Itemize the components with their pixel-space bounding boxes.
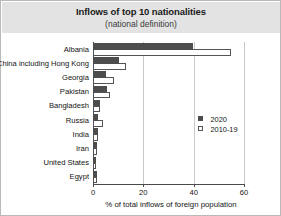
category-label: India — [73, 130, 89, 139]
chart-figure: Inflows of top 10 nationalities (nationa… — [0, 0, 281, 216]
chart-title-band: Inflows of top 10 nationalities (nationa… — [2, 2, 280, 33]
x-tick — [143, 184, 144, 187]
bar-group — [93, 85, 244, 99]
x-axis-title: % of total inflows of foreign population — [71, 200, 271, 209]
open-square-icon — [198, 126, 203, 131]
bar-group — [93, 56, 244, 70]
bar-2010-19 — [93, 163, 96, 170]
bar-2010-19 — [93, 49, 231, 56]
bar-2020 — [93, 71, 106, 78]
legend-item-2020: 2020 — [198, 110, 238, 120]
bar-2020 — [93, 142, 97, 149]
category-label: Georgia — [62, 73, 89, 82]
bar-group — [93, 141, 244, 155]
bar-2010-19 — [93, 134, 98, 141]
chart-title: Inflows of top 10 nationalities — [2, 6, 280, 17]
bar-2020 — [93, 57, 119, 64]
bar-2020 — [93, 114, 98, 121]
bar-2010-19 — [93, 148, 97, 155]
category-label: United States — [43, 158, 89, 167]
x-tick-label: 60 — [232, 188, 256, 197]
bar-2020 — [93, 128, 98, 135]
x-tick-label: 20 — [131, 188, 155, 197]
chart-subtitle: (national definition) — [2, 19, 280, 29]
category-label: Iran — [76, 144, 89, 153]
bar-group — [93, 70, 244, 84]
category-label: Bangladesh — [49, 101, 89, 110]
x-tick-label: 40 — [182, 188, 206, 197]
gridline — [244, 42, 245, 184]
category-label: Egypt — [70, 172, 89, 181]
bar-2020 — [93, 157, 96, 164]
bar-2020 — [93, 171, 97, 178]
legend-label: 2010-19 — [210, 125, 237, 134]
x-tick-label: 0 — [81, 188, 105, 197]
legend-item-2010-19: 2010-19 — [198, 120, 238, 130]
bar-2010-19 — [93, 63, 126, 70]
bar-2020 — [93, 43, 193, 50]
bar-2010-19 — [93, 177, 97, 184]
bar-2010-19 — [93, 92, 110, 99]
bar-group — [93, 156, 244, 170]
x-tick — [194, 184, 195, 187]
category-label: China including Hong Kong — [0, 59, 89, 68]
bar-group — [93, 42, 244, 56]
category-label: Albania — [64, 45, 89, 54]
bar-group — [93, 170, 244, 184]
chart-legend: 2020 2010-19 — [198, 110, 238, 130]
x-tick — [244, 184, 245, 187]
bar-2020 — [93, 86, 107, 93]
x-axis-line — [93, 184, 245, 185]
x-tick — [93, 184, 94, 187]
bar-2010-19 — [93, 106, 100, 113]
bar-2020 — [93, 100, 100, 107]
category-label: Pakistan — [60, 87, 89, 96]
category-label: Russia — [66, 116, 89, 125]
bar-2010-19 — [93, 120, 103, 127]
bar-2010-19 — [93, 77, 114, 84]
